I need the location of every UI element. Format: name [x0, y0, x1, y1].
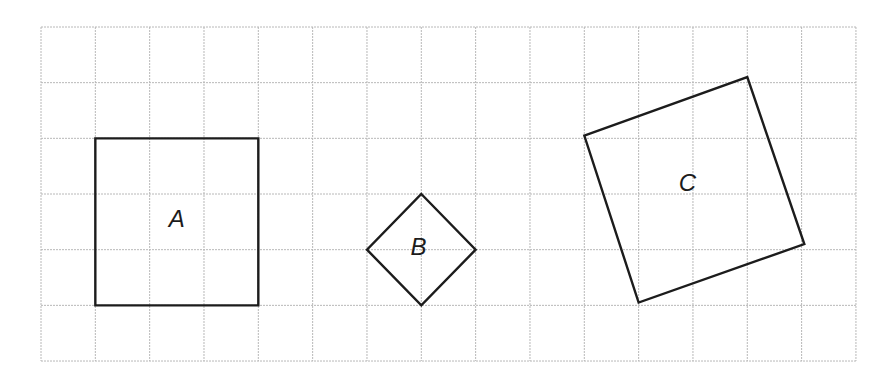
shapes-layer: A B C: [95, 77, 804, 305]
grid-figure: A B C: [0, 0, 891, 380]
label-a: A: [167, 205, 185, 232]
label-b: B: [411, 233, 427, 260]
grid: [41, 27, 856, 361]
label-c: C: [679, 169, 697, 196]
